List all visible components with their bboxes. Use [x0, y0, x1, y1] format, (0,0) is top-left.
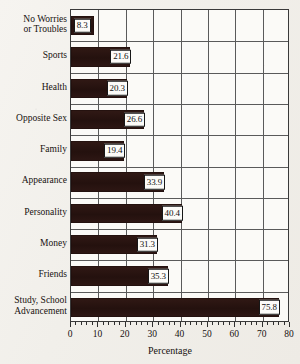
bar-value-label: 40.4	[162, 206, 183, 221]
row-separator	[71, 41, 288, 42]
category-label-5: Appearance	[0, 175, 67, 186]
x-axis-title: Percentage	[0, 345, 300, 356]
x-tick-minor	[240, 322, 241, 325]
category-label-3: Opposite Sex	[0, 113, 67, 124]
bar-row: 35.3	[71, 266, 288, 285]
x-tick-label-20: 20	[120, 329, 130, 339]
x-tick-minor	[119, 322, 120, 325]
x-tick-minor	[190, 322, 191, 325]
x-tick-minor	[141, 322, 142, 325]
plot-area: 8.321.620.326.619.433.940.431.335.375.8	[70, 9, 289, 322]
bar-value-label: 26.6	[124, 112, 145, 127]
x-tick-label-60: 60	[230, 329, 240, 339]
row-separator	[71, 135, 288, 136]
bar-value-label: 31.3	[137, 238, 158, 253]
x-tick-label-10: 10	[93, 329, 103, 339]
x-tick-major	[97, 322, 98, 327]
x-tick-major	[262, 322, 263, 327]
bar-value-label: 19.4	[104, 144, 125, 159]
x-tick-major	[289, 322, 290, 327]
x-tick-label-0: 0	[68, 329, 73, 339]
x-tick-minor	[81, 322, 82, 325]
x-tick-minor	[86, 322, 87, 325]
x-tick-minor	[103, 322, 104, 325]
bar-row: 75.8	[71, 298, 288, 317]
x-tick-minor	[92, 322, 93, 325]
x-tick-major	[70, 322, 71, 327]
x-tick-major	[180, 322, 181, 327]
x-tick-minor	[108, 322, 109, 325]
bar-chart: 8.321.620.326.619.433.940.431.335.375.8 …	[0, 0, 300, 364]
bar-row: 19.4	[71, 141, 288, 160]
bar	[71, 298, 279, 317]
x-tick-minor	[256, 322, 257, 325]
row-separator	[71, 198, 288, 199]
category-label-4: Family	[0, 144, 67, 155]
x-axis-ticks	[70, 322, 289, 327]
bar-row: 33.9	[71, 172, 288, 191]
x-tick-label-70: 70	[257, 329, 267, 339]
x-tick-minor	[212, 322, 213, 325]
x-tick-minor	[147, 322, 148, 325]
x-tick-minor	[163, 322, 164, 325]
x-tick-minor	[273, 322, 274, 325]
x-tick-minor	[158, 322, 159, 325]
x-tick-minor	[278, 322, 279, 325]
bar-row: 20.3	[71, 79, 288, 98]
x-tick-minor	[136, 322, 137, 325]
x-tick-minor	[229, 322, 230, 325]
x-tick-minor	[245, 322, 246, 325]
row-separator	[71, 167, 288, 168]
bar-value-label: 20.3	[107, 81, 128, 96]
x-tick-minor	[218, 322, 219, 325]
x-tick-minor	[284, 322, 285, 325]
x-tick-major	[125, 322, 126, 327]
x-tick-major	[152, 322, 153, 327]
x-tick-minor	[201, 322, 202, 325]
category-label-9: Study, School Advancement	[0, 295, 67, 316]
bar-value-label: 8.3	[74, 18, 91, 33]
x-tick-minor	[130, 322, 131, 325]
row-separator	[71, 260, 288, 261]
x-tick-major	[207, 322, 208, 327]
category-label-7: Money	[0, 238, 67, 249]
category-label-0: No Worries or Troubles	[0, 14, 67, 35]
x-tick-label-40: 40	[175, 329, 185, 339]
bar-value-label: 35.3	[148, 269, 169, 284]
bar-value-label: 33.9	[144, 175, 165, 190]
x-tick-minor	[251, 322, 252, 325]
x-axis-tick-labels: 01020304050607080	[0, 329, 300, 343]
row-separator	[71, 229, 288, 230]
bar-value-label: 75.8	[259, 300, 280, 315]
bar-row: 31.3	[71, 235, 288, 254]
x-tick-minor	[223, 322, 224, 325]
x-tick-minor	[174, 322, 175, 325]
row-separator	[71, 104, 288, 105]
category-label-2: Health	[0, 82, 67, 93]
x-tick-minor	[267, 322, 268, 325]
bar-row: 21.6	[71, 47, 288, 66]
x-tick-minor	[185, 322, 186, 325]
x-tick-label-30: 30	[147, 329, 157, 339]
category-label-8: Friends	[0, 269, 67, 280]
x-tick-minor	[114, 322, 115, 325]
bar-value-label: 21.6	[110, 50, 131, 65]
row-separator	[71, 292, 288, 293]
x-tick-minor	[75, 322, 76, 325]
x-tick-minor	[196, 322, 197, 325]
bar-row: 26.6	[71, 110, 288, 129]
category-label-1: Sports	[0, 50, 67, 61]
row-separator	[71, 73, 288, 74]
bar-row: 8.3	[71, 16, 288, 35]
category-label-6: Personality	[0, 207, 67, 218]
x-axis-title-text: Percentage	[148, 345, 192, 356]
x-tick-label-80: 80	[284, 329, 294, 339]
x-tick-major	[234, 322, 235, 327]
x-tick-minor	[169, 322, 170, 325]
bar-row: 40.4	[71, 204, 288, 223]
x-tick-label-50: 50	[202, 329, 212, 339]
